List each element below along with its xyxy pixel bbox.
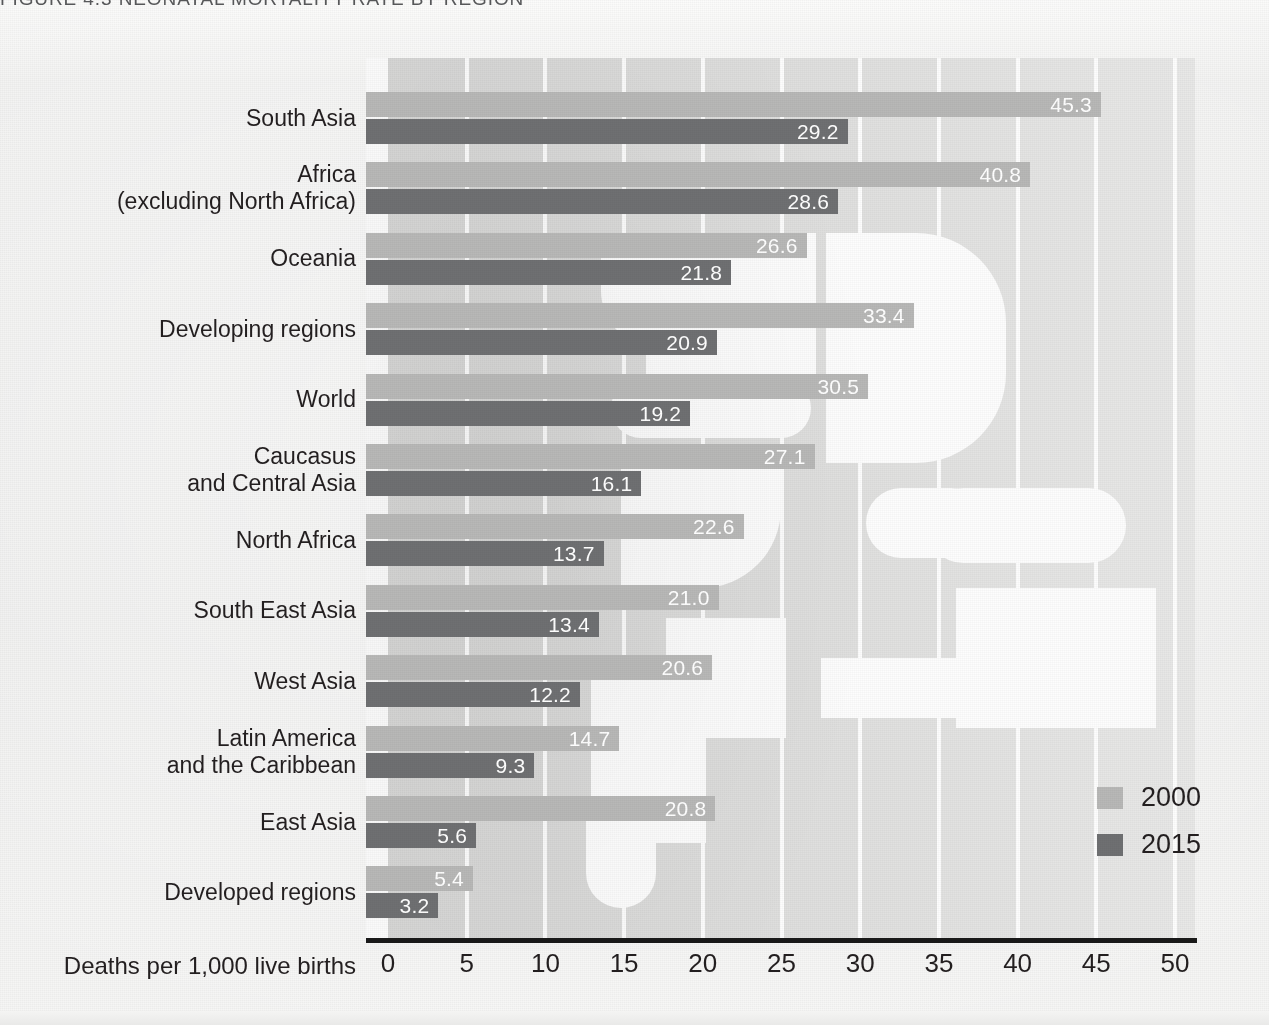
bar-2015[interactable]: 5.6 [366, 823, 476, 848]
bar-group: 21.013.4 [366, 585, 1195, 639]
bar-group: 5.43.2 [366, 866, 1195, 920]
x-tick-30: 30 [846, 948, 875, 979]
category-label-line: West Asia [16, 668, 356, 695]
legend-swatch-2015 [1097, 834, 1123, 856]
bar-2000[interactable]: 20.8 [366, 796, 715, 821]
category-labels: South AsiaAfrica(excluding North Africa)… [12, 58, 356, 938]
category-label-line: World [16, 386, 356, 413]
bar-group: 30.519.2 [366, 374, 1195, 428]
bar-value-label: 21.0 [668, 585, 719, 610]
category-label-line: South Asia [16, 105, 356, 132]
bar-value-label: 19.2 [640, 401, 691, 426]
bar-2000[interactable]: 21.0 [366, 585, 719, 610]
bar-2015[interactable]: 12.2 [366, 682, 580, 707]
bar-2015[interactable]: 9.3 [366, 753, 534, 778]
x-tick-40: 40 [1003, 948, 1032, 979]
bar-2015[interactable]: 21.8 [366, 260, 731, 285]
bar-value-label: 21.8 [680, 260, 731, 285]
bar-2000[interactable]: 33.4 [366, 303, 914, 328]
bar-value-label: 30.5 [817, 374, 868, 399]
bar-value-label: 33.4 [863, 303, 914, 328]
bar-value-label: 20.9 [666, 330, 717, 355]
legend-item-2000[interactable]: 2000 [1097, 782, 1201, 813]
category-label: Africa(excluding North Africa) [16, 161, 356, 215]
bar-value-label: 40.8 [980, 162, 1031, 187]
x-axis-label: Deaths per 1,000 live births [8, 952, 356, 980]
bar-2000[interactable]: 5.4 [366, 866, 473, 891]
category-label-line: and the Caribbean [16, 752, 356, 779]
bar-2000[interactable]: 22.6 [366, 514, 744, 539]
x-tick-10: 10 [531, 948, 560, 979]
category-label: World [16, 386, 356, 413]
category-label-line: South East Asia [16, 597, 356, 624]
figure-title: FIGURE 4.3 NEONATAL MORTALITY RATE BY RE… [0, 0, 820, 10]
bar-2000[interactable]: 30.5 [366, 374, 868, 399]
category-label-line: (excluding North Africa) [16, 188, 356, 215]
bar-group: 26.621.8 [366, 233, 1195, 287]
bar-value-label: 28.6 [787, 189, 838, 214]
category-label: Caucasusand Central Asia [16, 443, 356, 497]
bar-2000[interactable]: 20.6 [366, 655, 712, 680]
bar-value-label: 14.7 [569, 726, 620, 751]
legend-item-2015[interactable]: 2015 [1097, 829, 1201, 860]
category-label-line: Developing regions [16, 316, 356, 343]
x-tick-0: 0 [381, 948, 395, 979]
category-label-line: North Africa [16, 527, 356, 554]
category-label: North Africa [16, 527, 356, 554]
bar-2015[interactable]: 16.1 [366, 471, 641, 496]
x-tick-50: 50 [1161, 948, 1190, 979]
bar-2015[interactable]: 13.4 [366, 612, 599, 637]
x-tick-20: 20 [688, 948, 717, 979]
chart-plot-area: 45.329.240.828.626.621.833.420.930.519.2… [366, 58, 1195, 938]
x-axis-ticks: 05101520253035404550 [366, 948, 1197, 988]
category-label-line: Oceania [16, 245, 356, 272]
bar-2015[interactable]: 13.7 [366, 541, 604, 566]
bar-2000[interactable]: 45.3 [366, 92, 1101, 117]
bar-2000[interactable]: 40.8 [366, 162, 1030, 187]
bar-group: 20.85.6 [366, 796, 1195, 850]
bar-group: 33.420.9 [366, 303, 1195, 357]
category-label-line: Developed regions [16, 879, 356, 906]
category-label: West Asia [16, 668, 356, 695]
bar-2000[interactable]: 27.1 [366, 444, 815, 469]
bar-value-label: 3.2 [400, 893, 439, 918]
bar-value-label: 9.3 [496, 753, 535, 778]
x-tick-15: 15 [610, 948, 639, 979]
category-label: Latin Americaand the Caribbean [16, 725, 356, 779]
bar-group: 45.329.2 [366, 92, 1195, 146]
bar-value-label: 45.3 [1050, 92, 1101, 117]
x-tick-35: 35 [924, 948, 953, 979]
bar-group: 27.116.1 [366, 444, 1195, 498]
bar-2000[interactable]: 14.7 [366, 726, 619, 751]
x-axis-line [366, 938, 1197, 943]
category-label: Developing regions [16, 316, 356, 343]
bar-2015[interactable]: 29.2 [366, 119, 848, 144]
category-label-line: East Asia [16, 809, 356, 836]
bar-2015[interactable]: 20.9 [366, 330, 717, 355]
bar-group: 40.828.6 [366, 162, 1195, 216]
bar-value-label: 20.6 [662, 655, 713, 680]
bar-2015[interactable]: 28.6 [366, 189, 838, 214]
legend-label-2000: 2000 [1141, 782, 1201, 813]
page-bottom-edge [0, 1011, 1269, 1025]
category-label: Developed regions [16, 879, 356, 906]
bar-value-label: 5.4 [434, 866, 473, 891]
legend-swatch-2000 [1097, 787, 1123, 809]
category-label: South East Asia [16, 597, 356, 624]
bar-value-label: 20.8 [665, 796, 716, 821]
bar-value-label: 12.2 [529, 682, 580, 707]
bar-value-label: 13.4 [548, 612, 599, 637]
bar-2015[interactable]: 19.2 [366, 401, 690, 426]
bar-group: 22.613.7 [366, 514, 1195, 568]
category-label-line: and Central Asia [16, 470, 356, 497]
bar-value-label: 5.6 [437, 823, 476, 848]
bar-2015[interactable]: 3.2 [366, 893, 438, 918]
x-tick-25: 25 [767, 948, 796, 979]
bar-2000[interactable]: 26.6 [366, 233, 807, 258]
bar-value-label: 26.6 [756, 233, 807, 258]
bar-group: 20.612.2 [366, 655, 1195, 709]
category-label: East Asia [16, 809, 356, 836]
bar-value-label: 27.1 [764, 444, 815, 469]
bar-value-label: 29.2 [797, 119, 848, 144]
category-label-line: Caucasus [16, 443, 356, 470]
